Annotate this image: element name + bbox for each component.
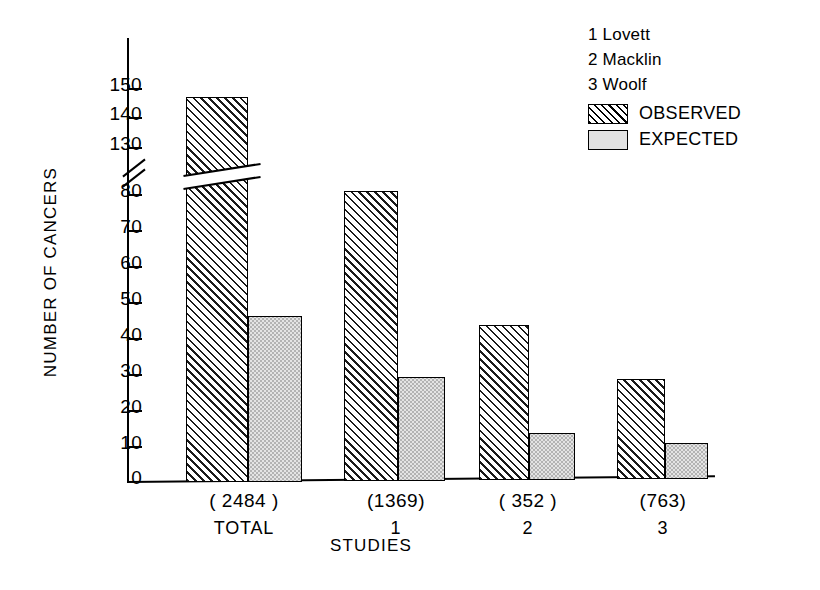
legend-item-observed: OBSERVED [588, 103, 798, 124]
bar-observed-total [186, 97, 248, 482]
legend-study-2: 2 Macklin [588, 47, 798, 72]
y-tick-label: 50 [84, 288, 142, 310]
chart-legend: 1 Lovett 2 Macklin 3 Woolf OBSERVED EXPE… [588, 22, 798, 150]
legend-swatch-observed-icon [588, 104, 628, 124]
y-tick-label: 150 [84, 74, 142, 96]
y-tick-label: 10 [84, 432, 142, 454]
group-label-total: TOTAL [164, 518, 324, 539]
y-tick-label: 0 [84, 467, 142, 489]
group-count-total: ( 2484 ) [164, 490, 324, 512]
bar-expected-total [248, 316, 302, 482]
y-tick-label: 60 [84, 252, 142, 274]
y-tick-label: 30 [84, 360, 142, 382]
legend-item-expected: EXPECTED [588, 129, 798, 150]
legend-study-3: 3 Woolf [588, 72, 798, 97]
legend-study-1: 1 Lovett [588, 22, 798, 47]
y-tick-label: 70 [84, 216, 142, 238]
bar-observed-study-3 [617, 379, 665, 479]
y-tick-label: 140 [84, 103, 142, 125]
legend-swatch-expected-icon [588, 130, 628, 150]
bar-expected-study-2 [529, 433, 575, 480]
bar-chart: 1 Lovett 2 Macklin 3 Woolf OBSERVED EXPE… [0, 0, 820, 590]
legend-label-observed: OBSERVED [639, 103, 741, 124]
y-tick-label: 40 [84, 324, 142, 346]
legend-label-expected: EXPECTED [639, 129, 738, 150]
bar-expected-study-3 [665, 443, 708, 479]
bar-expected-study-1 [398, 377, 445, 481]
group-count-study-3: (763) [583, 490, 743, 512]
x-axis-title: STUDIES [330, 536, 412, 556]
group-label-study-3: 3 [583, 518, 743, 539]
y-tick-label: 130 [84, 133, 142, 155]
y-tick-label: 80 [84, 180, 142, 202]
bar-observed-study-2 [479, 325, 529, 480]
y-axis-title: NUMBER OF CANCERS [41, 122, 61, 422]
bar-observed-study-1 [344, 191, 398, 481]
y-tick-label: 20 [84, 396, 142, 418]
